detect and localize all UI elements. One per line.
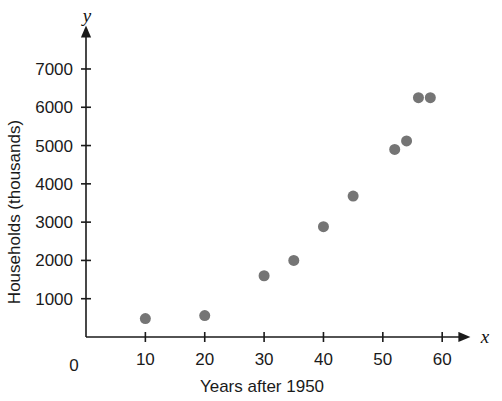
- x-tick-label: 40: [314, 350, 333, 369]
- data-point: [199, 310, 210, 321]
- data-point: [259, 270, 270, 281]
- y-axis-ticks: 1000200030004000500060007000: [35, 60, 91, 309]
- data-point: [389, 144, 400, 155]
- x-tick-label: 10: [136, 350, 155, 369]
- y-axis-title: Households (thousands): [5, 120, 24, 304]
- x-axis-variable-label: x: [480, 326, 490, 347]
- y-tick-label: 7000: [35, 60, 73, 79]
- x-axis-title: Years after 1950: [200, 377, 324, 396]
- y-tick-label: 2000: [35, 251, 73, 270]
- data-points: [140, 92, 436, 324]
- data-point: [348, 191, 359, 202]
- data-point: [140, 313, 151, 324]
- data-point: [288, 255, 299, 266]
- x-tick-label: 20: [195, 350, 214, 369]
- y-tick-label: 5000: [35, 137, 73, 156]
- y-axis-variable-label: y: [81, 5, 92, 26]
- data-point: [413, 92, 424, 103]
- chart-canvas: 1000200030004000500060007000 10203040506…: [0, 0, 502, 401]
- x-tick-label: 50: [373, 350, 392, 369]
- data-point: [318, 221, 329, 232]
- data-point: [401, 135, 412, 146]
- x-tick-label: 60: [433, 350, 452, 369]
- y-tick-label: 3000: [35, 213, 73, 232]
- axes: [86, 36, 460, 337]
- y-tick-label: 6000: [35, 98, 73, 117]
- data-point: [425, 92, 436, 103]
- origin-label: 0: [69, 356, 78, 375]
- scatter-chart: 1000200030004000500060007000 10203040506…: [0, 0, 502, 401]
- y-tick-label: 4000: [35, 175, 73, 194]
- y-tick-label: 1000: [35, 290, 73, 309]
- x-tick-label: 30: [255, 350, 274, 369]
